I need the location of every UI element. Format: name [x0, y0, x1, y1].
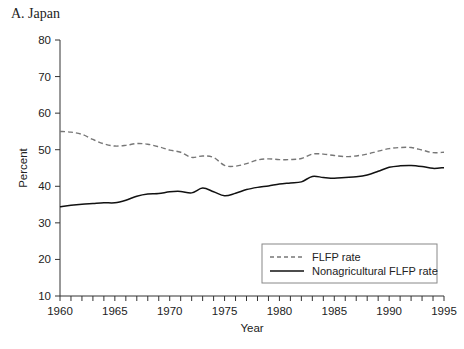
x-axis-label: Year — [240, 322, 263, 334]
y-tick-label: 30 — [38, 217, 51, 229]
legend-label-flfp: FLFP rate — [312, 251, 361, 263]
y-tick-label: 20 — [38, 253, 51, 265]
y-tick-label: 40 — [38, 180, 51, 192]
x-tick-label: 1985 — [321, 305, 347, 317]
y-axis-label: Percent — [17, 147, 29, 187]
line-chart: 1020304050607080196019651970197519801985… — [0, 0, 464, 349]
x-tick-label: 1980 — [267, 305, 293, 317]
y-tick-label: 60 — [38, 107, 51, 119]
legend-box — [262, 244, 437, 283]
series-group — [60, 131, 444, 206]
x-tick-label: 1975 — [212, 305, 238, 317]
x-tick-label: 1965 — [102, 305, 128, 317]
series-line-flfp — [60, 131, 444, 166]
series-line-nonag — [60, 165, 444, 206]
y-tick-label: 50 — [38, 144, 51, 156]
y-tick-label: 10 — [38, 290, 51, 302]
x-tick-label: 1990 — [376, 305, 402, 317]
legend: FLFP rate Nonagricultural FLFP rate — [262, 244, 438, 283]
x-tick-label: 1995 — [431, 305, 457, 317]
legend-label-nonag: Nonagricultural FLFP rate — [312, 265, 438, 277]
y-tick-label: 70 — [38, 71, 51, 83]
x-tick-label: 1960 — [47, 305, 73, 317]
y-tick-label: 80 — [38, 34, 51, 46]
x-tick-label: 1970 — [157, 305, 183, 317]
